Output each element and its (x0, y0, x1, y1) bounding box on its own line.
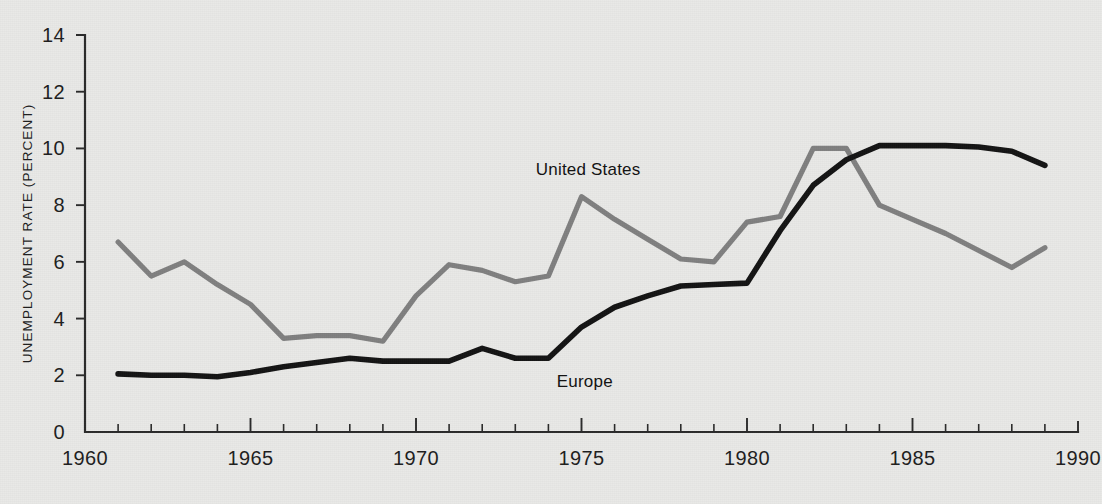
series-label-europe: Europe (557, 372, 613, 391)
y-tick-label: 8 (53, 194, 65, 216)
y-tick-label-group: 02468101214 (42, 24, 65, 443)
y-tick-label: 2 (53, 364, 65, 386)
chart-canvas: 02468101214 1960196519701975198019851990… (0, 0, 1102, 504)
y-tick-label: 4 (53, 308, 65, 330)
x-tick-label: 1985 (889, 447, 935, 469)
x-tick-label: 1980 (724, 447, 770, 469)
y-axis-title-group: UNEMPLOYMENT RATE (PERCENT) (20, 104, 35, 363)
y-axis-title: UNEMPLOYMENT RATE (PERCENT) (20, 104, 35, 363)
x-tick-label: 1965 (227, 447, 273, 469)
y-tick-label: 14 (42, 24, 65, 46)
unemployment-rate-line-chart: 02468101214 1960196519701975198019851990… (0, 0, 1102, 504)
y-tick-label: 6 (53, 251, 65, 273)
series-group (118, 146, 1045, 377)
x-tick-label: 1975 (558, 447, 604, 469)
x-tick-label-group: 1960196519701975198019851990 (62, 447, 1101, 469)
x-tick-label: 1970 (393, 447, 439, 469)
x-tick-label: 1960 (62, 447, 108, 469)
x-tick-label: 1990 (1055, 447, 1101, 469)
y-tick-label: 0 (53, 421, 65, 443)
series-label-united-states: United States (536, 160, 641, 179)
y-tick-label: 12 (42, 81, 65, 103)
y-tick-label: 10 (42, 137, 65, 159)
series-line-europe (118, 146, 1045, 377)
